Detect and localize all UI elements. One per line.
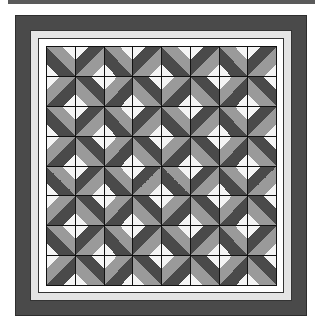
quilt-patch (47, 167, 75, 196)
quilt-patch (220, 77, 248, 106)
quilt-patch (105, 107, 133, 136)
quilt-patch (47, 137, 75, 166)
quilt-patch (105, 47, 133, 76)
quilt-patch (133, 226, 161, 255)
quilt-patch (220, 167, 248, 196)
quilt-patch (133, 47, 161, 76)
quilt-patch (105, 137, 133, 166)
quilt-patch (105, 77, 133, 106)
quilt-patch (76, 167, 104, 196)
quilt-patch (191, 226, 219, 255)
quilt-patch (76, 226, 104, 255)
quilt-patch (47, 196, 75, 225)
quilt-patch (248, 196, 276, 225)
quilt-patch (47, 77, 75, 106)
quilt-block-grid (46, 46, 277, 286)
quilt-patch (220, 196, 248, 225)
quilt-patch (191, 196, 219, 225)
quilt-patch (248, 226, 276, 255)
quilt-patch (162, 196, 190, 225)
quilt-patch (220, 226, 248, 255)
quilt-patch (133, 107, 161, 136)
quilt-patch (248, 167, 276, 196)
quilt-patch (248, 256, 276, 285)
quilt-inner-light-border (30, 30, 292, 301)
quilt-patch (191, 256, 219, 285)
quilt-patch (248, 107, 276, 136)
top-strip (8, 0, 315, 4)
quilt-patch (47, 107, 75, 136)
quilt-patch (76, 196, 104, 225)
quilt-patch (105, 256, 133, 285)
quilt-patch (191, 107, 219, 136)
quilt-patch (162, 47, 190, 76)
quilt-patch (105, 167, 133, 196)
quilt-patch (191, 137, 219, 166)
quilt-patch (133, 137, 161, 166)
quilt-patch (191, 47, 219, 76)
quilt-patch (105, 226, 133, 255)
quilt-patch (220, 47, 248, 76)
quilt-patch (220, 137, 248, 166)
quilt-patch (162, 107, 190, 136)
quilt-patch (76, 107, 104, 136)
quilt-patch (220, 256, 248, 285)
quilt-patch (133, 167, 161, 196)
quilt-patch (191, 77, 219, 106)
quilt-patch (133, 256, 161, 285)
quilt-patch (162, 226, 190, 255)
quilt-patch (191, 167, 219, 196)
quilt-patch (76, 77, 104, 106)
quilt-patch (47, 47, 75, 76)
quilt-patch (248, 47, 276, 76)
quilt-patch (162, 256, 190, 285)
quilt-patch (248, 137, 276, 166)
quilt-patch (76, 47, 104, 76)
quilt-inner-white-border (38, 38, 284, 293)
quilt-patch (248, 77, 276, 106)
quilt-patch (47, 226, 75, 255)
quilt-patch (133, 77, 161, 106)
quilt-patch (76, 137, 104, 166)
quilt-patch (76, 256, 104, 285)
quilt-patch (220, 107, 248, 136)
quilt-patch (162, 167, 190, 196)
quilt-patch (105, 196, 133, 225)
quilt-patch (133, 196, 161, 225)
quilt-patch (162, 77, 190, 106)
quilt (15, 15, 307, 316)
quilt-patch (162, 137, 190, 166)
quilt-patch (47, 256, 75, 285)
